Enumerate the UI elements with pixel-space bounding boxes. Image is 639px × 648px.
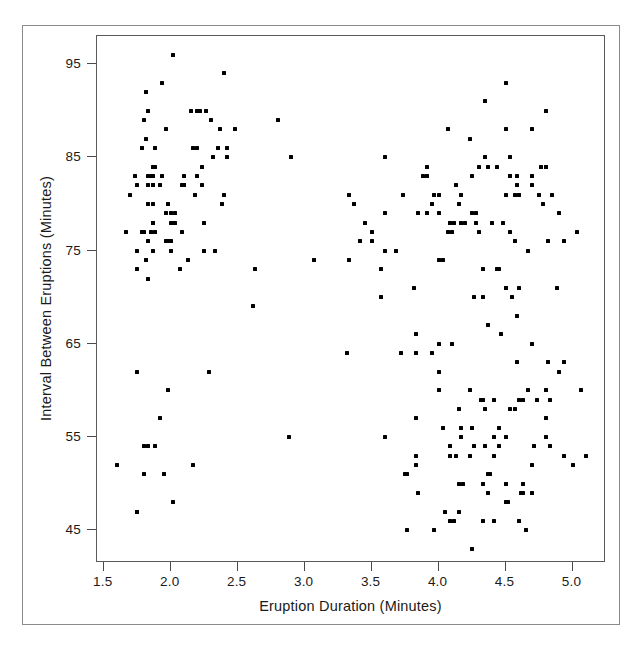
data-point (492, 519, 496, 523)
data-point (472, 444, 476, 448)
data-point (448, 444, 452, 448)
data-point (504, 81, 508, 85)
data-point (481, 398, 485, 402)
data-point (486, 472, 490, 476)
data-point (195, 146, 199, 150)
data-point (513, 193, 517, 197)
data-point (524, 528, 528, 532)
data-point (517, 398, 521, 402)
data-point (425, 174, 429, 178)
data-point (474, 221, 478, 225)
data-point (544, 435, 548, 439)
x-axis-tick (170, 562, 171, 571)
data-point (532, 444, 536, 448)
data-point (146, 109, 150, 113)
data-point (530, 174, 534, 178)
data-point (169, 239, 173, 243)
data-point (550, 193, 554, 197)
data-point (180, 183, 184, 187)
data-point (193, 193, 197, 197)
data-point (481, 519, 485, 523)
data-point (530, 342, 534, 346)
x-axis-tick-label: 2.0 (148, 574, 192, 589)
data-point (352, 202, 356, 206)
y-axis-tick (87, 63, 96, 64)
y-axis-tick (87, 436, 96, 437)
data-point (430, 202, 434, 206)
data-point (504, 193, 508, 197)
data-point (233, 127, 237, 131)
data-point (312, 258, 316, 262)
data-point (504, 286, 508, 290)
data-point (166, 388, 170, 392)
scatter-plot-figure: Interval Between Eruptions (Minutes) 455… (0, 0, 639, 648)
data-point (501, 221, 505, 225)
data-point (207, 370, 211, 374)
data-point (562, 360, 566, 364)
data-point (358, 239, 362, 243)
data-point (414, 332, 418, 336)
x-axis-tick-label: 3.5 (349, 574, 393, 589)
data-point (146, 444, 150, 448)
data-point (216, 146, 220, 150)
data-point (492, 454, 496, 458)
data-point (544, 109, 548, 113)
data-point (535, 398, 539, 402)
data-point (164, 211, 168, 215)
x-axis-tick (304, 562, 305, 571)
data-point (128, 193, 132, 197)
data-point (289, 155, 293, 159)
data-point (515, 360, 519, 364)
data-point (441, 258, 445, 262)
data-point (383, 211, 387, 215)
data-point (457, 407, 461, 411)
data-point (457, 202, 461, 206)
data-point (530, 463, 534, 467)
data-point (499, 332, 503, 336)
data-point (383, 155, 387, 159)
x-axis-tick-label: 1.5 (81, 574, 125, 589)
data-point (204, 109, 208, 113)
data-point (548, 444, 552, 448)
x-axis-title: Eruption Duration (Minutes) (96, 598, 605, 614)
data-point (164, 127, 168, 131)
data-point (486, 165, 490, 169)
data-point (470, 211, 474, 215)
data-point (416, 211, 420, 215)
data-point (483, 99, 487, 103)
data-point (416, 491, 420, 495)
data-point (144, 137, 148, 141)
data-point (481, 295, 485, 299)
data-point (454, 183, 458, 187)
y-axis-tick-label: 95 (41, 55, 81, 70)
data-point (211, 155, 215, 159)
data-point (213, 249, 217, 253)
data-point (483, 407, 487, 411)
data-point (202, 249, 206, 253)
data-point (515, 314, 519, 318)
x-axis-tick-label: 5.0 (550, 574, 594, 589)
data-point (474, 211, 478, 215)
data-point (519, 491, 523, 495)
data-point (140, 230, 144, 234)
data-point (521, 398, 525, 402)
x-axis-tick (371, 562, 372, 571)
data-point (151, 249, 155, 253)
data-point (437, 370, 441, 374)
plot-area (96, 35, 605, 562)
data-point (546, 360, 550, 364)
data-point (468, 388, 472, 392)
data-point (510, 295, 514, 299)
data-point (158, 416, 162, 420)
data-point (347, 258, 351, 262)
data-point (437, 342, 441, 346)
data-point (452, 221, 456, 225)
data-point (555, 286, 559, 290)
data-point (432, 193, 436, 197)
y-axis-tick-label: 55 (41, 429, 81, 444)
data-point (504, 127, 508, 131)
data-point (470, 547, 474, 551)
y-axis-tick-label: 45 (41, 522, 81, 537)
data-point (124, 230, 128, 234)
data-point (153, 444, 157, 448)
